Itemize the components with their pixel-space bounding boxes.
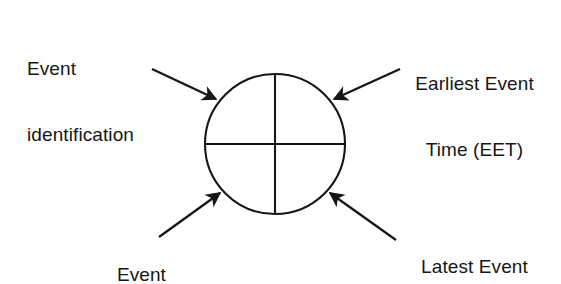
label-latest-event-time: Latest Event Time (LET) — [402, 212, 547, 284]
label-event-slack: Event Slack — [82, 220, 166, 284]
label-event-identification-line-1: Event — [27, 58, 134, 80]
arrow-latest-event-time — [330, 193, 396, 240]
label-earliest-event-time: Earliest Event Time (EET) — [402, 29, 547, 205]
label-event-identification: Event identification — [27, 14, 134, 190]
label-latest-event-time-line-1: Latest Event — [402, 256, 547, 278]
arrow-event-identification — [152, 69, 216, 99]
event-circle-group — [205, 74, 345, 214]
label-earliest-event-time-line-1: Earliest Event — [402, 73, 547, 95]
event-node-diagram: Event identification Earliest Event Time… — [0, 0, 561, 284]
arrow-event-slack — [159, 193, 220, 237]
label-event-slack-line-1: Event — [82, 264, 166, 284]
label-earliest-event-time-line-2: Time (EET) — [402, 139, 547, 161]
arrow-earliest-event-time — [334, 69, 400, 99]
label-event-identification-line-2: identification — [27, 124, 134, 146]
